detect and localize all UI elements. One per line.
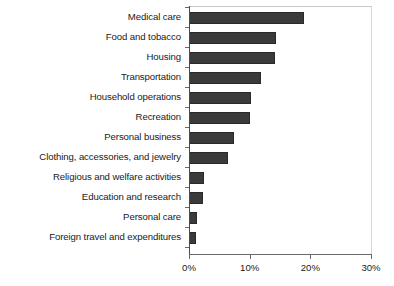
category-label-transportation: Transportation [121, 71, 181, 83]
category-label-household-operations: Household operations [90, 91, 181, 103]
x-tick [371, 255, 372, 259]
bar-transportation [189, 72, 261, 84]
bar-medical-care [189, 12, 304, 24]
category-label-education-and-research: Education and research [82, 191, 181, 203]
category-label-food-and-tobacco: Food and tobacco [106, 31, 181, 43]
category-label-housing: Housing [147, 51, 182, 63]
x-tick-label: 0% [169, 262, 209, 274]
bar-religious-and-welfare-activities [189, 172, 204, 184]
y-axis-line [189, 6, 190, 255]
bar-clothing-accessories-and-jewelry [189, 152, 228, 164]
plot-area [189, 6, 372, 254]
bar-chart: Medical care Food and tobacco Housing Tr… [0, 0, 394, 286]
category-label-personal-care: Personal care [123, 211, 181, 223]
bar-household-operations [189, 92, 251, 104]
category-label-religious-and-welfare-activities: Religious and welfare activities [53, 171, 181, 183]
category-axis-labels: Medical care Food and tobacco Housing Tr… [0, 6, 185, 254]
bar-personal-business [189, 132, 234, 144]
category-label-foreign-travel-and-expenditures: Foreign travel and expenditures [49, 231, 181, 243]
x-axis-line [189, 254, 372, 255]
category-label-personal-business: Personal business [104, 131, 181, 143]
bar-personal-care [189, 212, 197, 224]
category-label-medical-care: Medical care [128, 11, 181, 23]
bar-education-and-research [189, 192, 203, 204]
bar-housing [189, 52, 275, 64]
x-tick [189, 255, 190, 259]
bar-food-and-tobacco [189, 32, 276, 44]
x-tick-label: 30% [351, 262, 391, 274]
x-tick-label: 10% [230, 262, 270, 274]
x-tick-label: 20% [290, 262, 330, 274]
x-tick [310, 255, 311, 259]
x-tick [250, 255, 251, 259]
bar-foreign-travel-and-expenditures [189, 232, 196, 244]
category-label-clothing-accessories-and-jewelry: Clothing, accessories, and jewelry [39, 151, 181, 163]
bar-recreation [189, 112, 250, 124]
category-label-recreation: Recreation [136, 111, 181, 123]
